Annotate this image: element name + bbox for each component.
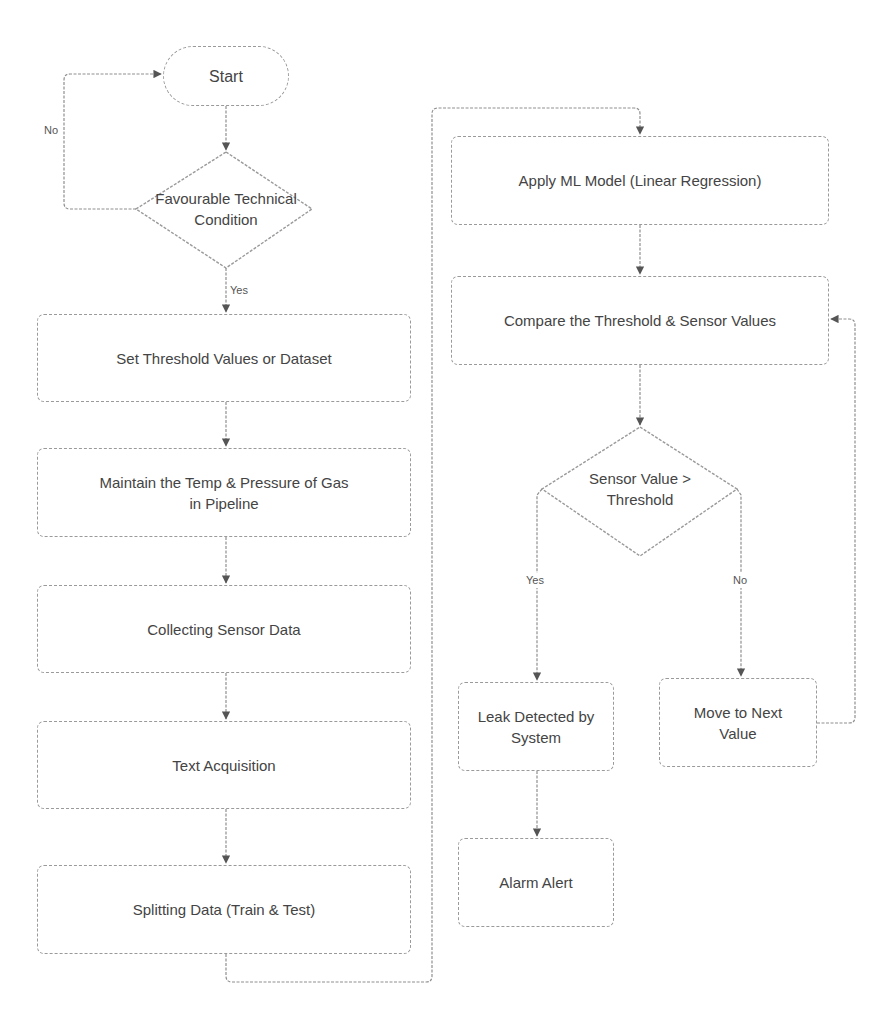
process-splitting: Splitting Data (Train & Test) bbox=[37, 865, 411, 954]
decision-favourable-label: Favourable Technical Condition bbox=[146, 188, 306, 230]
process-compare-label: Compare the Threshold & Sensor Values bbox=[504, 310, 776, 331]
edge-label-sensor-yes: Yes bbox=[526, 573, 544, 588]
process-apply-ml: Apply ML Model (Linear Regression) bbox=[451, 136, 829, 225]
process-splitting-label: Splitting Data (Train & Test) bbox=[133, 899, 316, 920]
process-leak-detected: Leak Detected by System bbox=[458, 682, 614, 771]
process-compare: Compare the Threshold & Sensor Values bbox=[451, 276, 829, 365]
edge-label-favourable-yes: Yes bbox=[230, 283, 248, 298]
start-label: Start bbox=[209, 66, 243, 87]
decision-favourable: Favourable Technical Condition bbox=[146, 180, 306, 238]
process-collecting-label: Collecting Sensor Data bbox=[147, 619, 300, 640]
decision-sensor: Sensor Value > Threshold bbox=[570, 465, 710, 513]
process-set-threshold-label: Set Threshold Values or Dataset bbox=[116, 348, 331, 369]
edge-label-sensor-no: No bbox=[733, 573, 747, 588]
process-move-next-label: Move to Next Value bbox=[682, 702, 794, 744]
edge-label-favourable-no: No bbox=[44, 123, 58, 138]
process-alarm-alert: Alarm Alert bbox=[458, 838, 614, 927]
process-maintain: Maintain the Temp & Pressure of Gas in P… bbox=[37, 448, 411, 537]
process-move-next: Move to Next Value bbox=[659, 678, 817, 767]
process-maintain-label: Maintain the Temp & Pressure of Gas in P… bbox=[56, 472, 392, 514]
process-text-acquisition-label: Text Acquisition bbox=[172, 755, 275, 776]
decision-sensor-label: Sensor Value > Threshold bbox=[570, 468, 710, 510]
process-leak-detected-label: Leak Detected by System bbox=[469, 706, 603, 748]
start-node: Start bbox=[163, 46, 289, 106]
process-collecting: Collecting Sensor Data bbox=[37, 585, 411, 673]
process-set-threshold: Set Threshold Values or Dataset bbox=[37, 314, 411, 402]
process-alarm-alert-label: Alarm Alert bbox=[499, 872, 572, 893]
process-apply-ml-label: Apply ML Model (Linear Regression) bbox=[519, 170, 762, 191]
process-text-acquisition: Text Acquisition bbox=[37, 721, 411, 809]
